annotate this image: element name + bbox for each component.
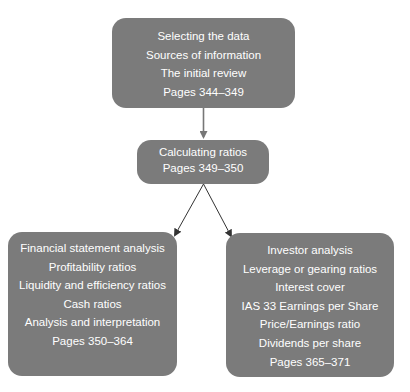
node-calculating-ratios: Calculating ratios Pages 349–350 <box>137 140 269 184</box>
node-line: Financial statement analysis <box>8 239 177 258</box>
node-pages: Pages 344–349 <box>112 83 295 102</box>
node-line: Analysis and interpretation <box>8 313 177 332</box>
node-line: Cash ratios <box>8 295 177 314</box>
node-line: The initial review <box>112 64 295 83</box>
node-pages: Pages 365–371 <box>226 353 394 372</box>
node-selecting-data: Selecting the data Sources of informatio… <box>112 18 295 108</box>
node-line: Liquidity and efficiency ratios <box>8 276 177 295</box>
node-line: Calculating ratios <box>137 144 269 160</box>
node-line: Interest cover <box>226 278 394 297</box>
node-investor-analysis: Investor analysis Leverage or gearing ra… <box>226 233 394 377</box>
arrow-middle-to-right <box>204 184 232 236</box>
node-line: Price/Earnings ratio <box>226 315 394 334</box>
arrow-middle-to-left <box>175 184 204 235</box>
node-line: Selecting the data <box>112 27 295 46</box>
node-pages: Pages 349–350 <box>137 160 269 176</box>
node-line: Dividends per share <box>226 334 394 353</box>
node-line: Profitability ratios <box>8 258 177 277</box>
node-financial-statement-analysis: Financial statement analysis Profitabili… <box>8 232 177 376</box>
node-line: Leverage or gearing ratios <box>226 260 394 279</box>
node-line: IAS 33 Earnings per Share <box>226 297 394 316</box>
node-line: Investor analysis <box>226 241 394 260</box>
node-pages: Pages 350–364 <box>8 332 177 351</box>
node-line: Sources of information <box>112 46 295 65</box>
